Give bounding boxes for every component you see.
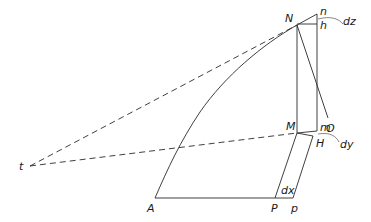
tangent-tM: [30, 133, 297, 166]
label-m: m: [320, 121, 331, 134]
tangent-tN: [30, 25, 297, 166]
line-Nn: [297, 14, 317, 25]
label-dx: dx: [281, 184, 295, 197]
line-NO: [297, 25, 328, 118]
label-n: n: [320, 5, 327, 18]
line-pH: [293, 136, 313, 198]
curve-AN: [155, 25, 297, 198]
label-H: H: [316, 137, 324, 150]
label-p: p: [290, 202, 298, 215]
label-A: A: [146, 202, 155, 215]
line-Mm: [297, 131, 317, 133]
diagram-canvas: N n h dz O M m H dy t A P p dx: [0, 0, 371, 222]
label-N: N: [285, 12, 293, 25]
label-dy: dy: [340, 138, 354, 151]
label-dz: dz: [343, 15, 356, 28]
label-M: M: [286, 120, 296, 133]
label-P: P: [271, 202, 278, 215]
label-t: t: [19, 160, 24, 173]
label-h: h: [320, 19, 327, 32]
line-MH: [297, 133, 313, 136]
